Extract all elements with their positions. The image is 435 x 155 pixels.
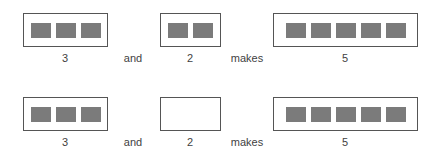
square — [386, 23, 406, 38]
square — [31, 23, 51, 38]
label-result-row1: 5 — [342, 52, 348, 64]
square — [31, 107, 51, 122]
square — [336, 107, 356, 122]
verb-row1: makes — [231, 52, 263, 64]
square — [193, 23, 213, 38]
verb-row2: makes — [231, 136, 263, 148]
square — [311, 107, 331, 122]
square — [168, 23, 188, 38]
square — [81, 23, 101, 38]
square — [311, 23, 331, 38]
box-result-row1 — [273, 13, 418, 47]
label-second-row2: 2 — [187, 136, 193, 148]
square — [56, 107, 76, 122]
square — [286, 23, 306, 38]
label-first-row2: 3 — [62, 136, 68, 148]
label-result-row2: 5 — [342, 136, 348, 148]
square — [361, 23, 381, 38]
box-first-row2 — [23, 97, 108, 131]
box-first-row1 — [23, 13, 108, 47]
box-result-row2 — [273, 97, 418, 131]
label-first-row1: 3 — [62, 52, 68, 64]
box-second-row2-empty — [160, 97, 221, 131]
square — [56, 23, 76, 38]
box-second-row1 — [160, 13, 221, 47]
square — [336, 23, 356, 38]
conj-row2: and — [124, 136, 142, 148]
label-second-row1: 2 — [187, 52, 193, 64]
square — [81, 107, 101, 122]
conj-row1: and — [124, 52, 142, 64]
square — [286, 107, 306, 122]
square — [361, 107, 381, 122]
square — [386, 107, 406, 122]
